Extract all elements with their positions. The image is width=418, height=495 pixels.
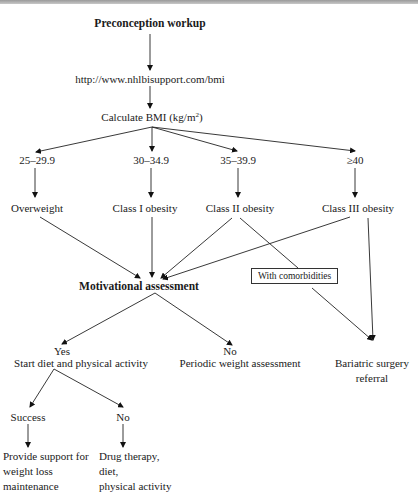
node-range-25: 25–29.9	[19, 154, 55, 167]
node-fail: No	[116, 411, 129, 424]
line-class2-to-comorbidities	[240, 218, 298, 268]
arrow-calc-to-35	[152, 127, 237, 151]
node-success: Success	[11, 411, 46, 424]
node-class3: Class III obesity	[322, 202, 394, 215]
node-support-line2: weight loss	[3, 465, 53, 478]
node-calculate-bmi: Calculate BMI (kg/m2)	[101, 111, 202, 124]
arrow-comorbidities-to-bariatric	[312, 288, 372, 340]
node-support-line1: Provide support for	[3, 450, 89, 463]
node-motivational-assessment: Motivational assessment	[79, 280, 199, 293]
node-drug-line1: Drug therapy,	[99, 450, 159, 463]
node-range-30: 30–34.9	[133, 154, 169, 167]
arrow-yes-to-success	[30, 369, 54, 407]
arrow-overweight-to-motivation	[40, 217, 140, 278]
arrow-calc-to-25	[36, 127, 152, 152]
node-support-line3: maintenance	[3, 480, 59, 493]
node-bariatric-line1: Bariatric surgery	[335, 357, 409, 370]
arrow-yes-to-no	[54, 369, 123, 407]
node-class1: Class I obesity	[113, 202, 178, 215]
arrow-motivation-to-yes	[62, 293, 155, 344]
node-range-35: 35–39.9	[220, 154, 256, 167]
arrow-class2-to-motivation	[161, 218, 232, 278]
node-periodic-assessment: Periodic weight assessment	[180, 357, 301, 370]
calc-label: Calculate BMI (kg/m	[101, 111, 195, 123]
node-drug-line3: physical activity	[99, 480, 171, 493]
node-start-diet: Start diet and physical activity	[14, 357, 148, 370]
node-preconception-workup: Preconception workup	[94, 17, 205, 30]
node-overweight: Overweight	[11, 202, 63, 215]
arrow-calc-to-40	[152, 127, 355, 151]
node-range-40: ≥40	[346, 154, 363, 167]
calc-close: )	[199, 111, 203, 123]
node-with-comorbidities: With comorbidities	[251, 268, 338, 284]
arrow-class3-to-bariatric	[368, 218, 373, 340]
arrow-motivation-to-no	[155, 293, 232, 345]
node-class2: Class II obesity	[206, 202, 274, 215]
node-bariatric-line2: referral	[356, 372, 388, 385]
node-drug-line2: diet,	[99, 465, 118, 478]
node-bmi-url: http://www.nhlbisupport.com/bmi	[75, 73, 225, 86]
